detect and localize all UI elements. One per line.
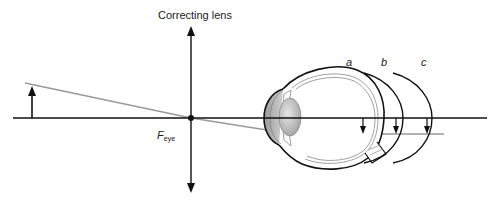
optics-diagram <box>0 0 499 202</box>
correcting-lens-label: Correcting lens <box>143 9 247 21</box>
object-arrow <box>28 86 36 118</box>
correcting-lens <box>187 26 195 193</box>
image-arrow-b <box>393 118 399 134</box>
focal-point-dot <box>188 115 194 121</box>
image-arrow-c <box>424 118 430 134</box>
label-a: a <box>346 56 352 68</box>
focal-point-label: Feye <box>157 129 175 142</box>
label-b: b <box>381 56 387 68</box>
focal-point-subscript: eye <box>164 135 175 142</box>
focal-point-main: F <box>157 129 164 141</box>
label-c: c <box>421 56 427 68</box>
